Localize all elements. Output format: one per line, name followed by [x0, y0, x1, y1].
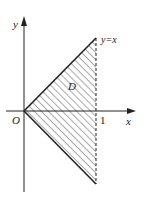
x-axis-label: x — [125, 115, 131, 127]
region-label: D — [67, 80, 76, 92]
boundary-label: y=x — [100, 34, 117, 45]
region-diagram: y x O 1 D y=x — [0, 0, 145, 203]
x-axis-arrow-icon — [127, 108, 136, 114]
origin-label: O — [12, 114, 20, 126]
y-axis-label: y — [12, 18, 18, 30]
y-axis-arrow-icon — [21, 16, 27, 26]
x-tick-label-1: 1 — [100, 114, 106, 126]
